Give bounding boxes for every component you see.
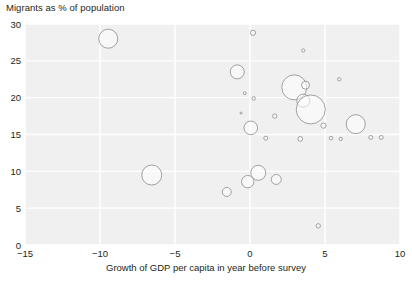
data-point-bubble <box>298 137 303 142</box>
plot-canvas: −15−10−50510 051015202530 <box>0 0 412 282</box>
y-tick-label: 25 <box>10 55 21 66</box>
data-point-bubble <box>244 121 258 135</box>
y-tick-label: 5 <box>16 203 21 214</box>
data-point-bubble <box>321 123 326 128</box>
data-point-bubble <box>329 136 333 140</box>
data-point-bubble <box>271 174 281 184</box>
data-point-bubble <box>222 187 231 196</box>
x-tick-label: 0 <box>247 248 252 259</box>
x-tick-label: 5 <box>322 248 327 259</box>
data-point-bubble <box>316 224 320 228</box>
x-axis-label: Growth of GDP per capita in year before … <box>0 262 412 273</box>
data-point-bubble <box>242 175 254 187</box>
y-tick-label: 0 <box>16 240 21 251</box>
x-tick-label: 10 <box>395 248 406 259</box>
data-point-bubble <box>243 92 246 95</box>
data-point-bubble <box>99 29 118 48</box>
data-point-bubble <box>142 165 162 185</box>
data-point-bubble <box>252 97 255 100</box>
bubble-chart-figure: Migrants as % of population −15−10−50510… <box>0 0 412 282</box>
y-tick-label: 10 <box>10 166 21 177</box>
x-axis-tick-labels: −15−10−50510 <box>17 248 405 259</box>
data-point-bubble <box>264 136 268 140</box>
data-point-bubble <box>250 30 255 35</box>
x-tick-label: −5 <box>170 248 181 259</box>
data-point-bubble <box>339 137 342 140</box>
y-tick-label: 30 <box>10 19 21 30</box>
y-axis-tick-labels: 051015202530 <box>10 19 21 251</box>
data-point-bubble <box>369 135 373 139</box>
data-point-bubble <box>302 81 310 89</box>
data-point-bubble <box>296 95 325 124</box>
y-tick-label: 15 <box>10 129 21 140</box>
data-point-bubble <box>302 49 305 52</box>
data-point-bubble <box>346 115 365 134</box>
data-point-bubble <box>230 65 244 79</box>
data-point-bubble <box>273 114 277 118</box>
data-point-bubble <box>338 78 341 81</box>
x-tick-label: −10 <box>92 248 108 259</box>
y-tick-label: 20 <box>10 92 21 103</box>
data-point-bubble <box>379 135 383 139</box>
data-point-bubble <box>240 112 242 114</box>
